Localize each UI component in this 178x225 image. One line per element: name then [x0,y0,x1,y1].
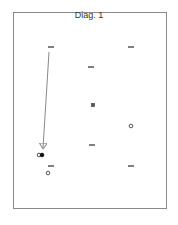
filled-circle-marker [40,153,44,157]
dash-marker [89,144,95,146]
diagram-canvas: Diag. 1 [0,0,178,225]
squares-layer [92,104,95,107]
circles-layer [37,124,133,175]
dash-marker [48,46,54,48]
diagram-drawing [0,0,178,225]
arrows-layer [43,52,49,148]
open-circle-marker [129,124,133,128]
open-circle-marker [46,171,50,175]
dash-marker [128,46,134,48]
arrow [43,52,49,148]
dash-marker [128,165,134,167]
dashes-layer [48,46,134,167]
dash-marker [48,165,54,167]
square-marker [92,104,95,107]
dash-marker [88,66,94,68]
